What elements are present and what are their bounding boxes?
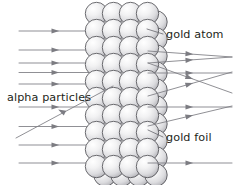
label-alpha-particles: alpha particles <box>7 91 91 104</box>
label-gold-foil: gold foil <box>166 131 212 144</box>
label-gold-atom: gold atom <box>166 28 224 41</box>
gold-foil-experiment-diagram: gold atomalpha particlesgold foil <box>0 0 244 185</box>
diagram-canvas: gold atomalpha particlesgold foil <box>0 0 244 185</box>
gold-atom-sphere <box>136 155 158 177</box>
